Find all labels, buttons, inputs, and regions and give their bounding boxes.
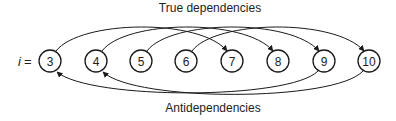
arc-5-to-9: [147, 27, 319, 51]
node-7: 7: [221, 50, 243, 72]
antidependency-arcs: [57, 71, 363, 94]
node-8: 8: [267, 50, 289, 72]
arc-6-to-10: [192, 27, 364, 51]
svg-text:6: 6: [183, 55, 190, 69]
svg-text:7: 7: [229, 55, 236, 69]
node-6: 6: [175, 50, 197, 72]
node-9: 9: [313, 50, 335, 72]
svg-text:10: 10: [362, 55, 376, 69]
node-5: 5: [130, 50, 152, 72]
svg-text:4: 4: [93, 55, 100, 69]
arc-4-to-8: [102, 27, 273, 51]
arc-9-to-3: [57, 71, 318, 93]
node-10: 10: [358, 50, 380, 72]
node-4: 4: [85, 50, 107, 72]
antidependencies-label: Antidependencies: [165, 101, 260, 115]
true-dependencies-label: True dependencies: [159, 1, 261, 15]
node-3: 3: [39, 50, 61, 72]
svg-text:5: 5: [138, 55, 145, 69]
svg-text:9: 9: [321, 55, 328, 69]
iteration-nodes: 3 4 5 6 7 8 9 10: [39, 50, 380, 72]
svg-text:8: 8: [275, 55, 282, 69]
svg-text:3: 3: [47, 55, 54, 69]
true-dependency-arcs: [56, 27, 364, 51]
dependency-diagram: True dependencies i= 3 4 5 6: [0, 0, 396, 121]
arc-3-to-7: [56, 27, 227, 51]
index-variable-label: i=: [18, 54, 31, 69]
